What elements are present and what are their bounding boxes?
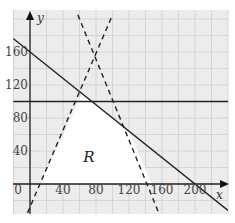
x-tick-160: 160 [151,183,174,197]
x-tick-80: 80 [88,183,103,197]
x-tick-200: 200 [184,183,207,197]
y-tick-80: 80 [13,111,28,125]
x-axis-label: x [216,188,223,202]
feasible-region-graph: y x 0 40 80 120 160 200 40 80 120 160 R [0,0,235,223]
origin-label: 0 [14,183,22,197]
y-tick-120: 120 [5,78,28,92]
y-tick-40: 40 [13,144,28,158]
x-tick-40: 40 [55,183,70,197]
y-axis-label: y [36,11,44,25]
x-tick-120: 120 [118,183,141,197]
region-label: R [82,148,94,166]
y-tick-160: 160 [5,45,28,59]
